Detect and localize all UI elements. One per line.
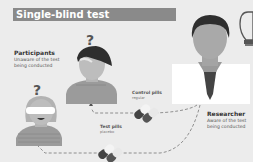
test-pills-label: Test pills <box>100 124 122 129</box>
title-banner: Single-blind test <box>13 8 176 21</box>
participants-heading: Participants <box>14 49 55 56</box>
test-pills-sub: placebo <box>100 130 114 134</box>
illustration: ? ? <box>0 0 253 162</box>
test-pill-path <box>38 105 200 153</box>
single-blind-diagram: ? ? Single-b <box>0 0 253 162</box>
researcher-desc-line2: being conducted <box>207 124 245 129</box>
page-title: Single-blind test <box>16 8 109 21</box>
lightbulb-icon <box>240 12 253 46</box>
control-pills-label: Control pills <box>132 90 162 95</box>
researcher-desc-line1: Aware of the test <box>207 118 246 123</box>
pill-capsule-icon <box>97 140 124 162</box>
question-mark-icon: ? <box>33 82 41 98</box>
pill-capsule-icon <box>133 100 160 126</box>
participants-desc-line1: Unaware of the test <box>14 57 59 62</box>
participant-figure-1: ? <box>66 32 117 104</box>
flow-arrows <box>38 105 200 153</box>
control-pills-sub: regular <box>132 96 145 100</box>
participants-desc-line2: being conducted <box>14 63 52 68</box>
researcher-figure <box>172 15 250 104</box>
blindfold-icon <box>26 107 55 114</box>
participant-figure-2: ? <box>16 82 62 146</box>
researcher-heading: Researcher <box>207 110 245 117</box>
question-mark-icon: ? <box>86 32 94 48</box>
